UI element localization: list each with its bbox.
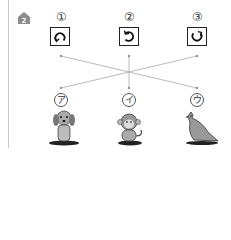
bird-illustration	[180, 108, 220, 146]
monkey-illustration	[110, 108, 150, 146]
animal-label-i: イ	[122, 93, 136, 107]
dog-illustration	[44, 108, 84, 146]
animal-label-u: ウ	[190, 93, 204, 107]
animal-label-a: ア	[54, 93, 68, 107]
